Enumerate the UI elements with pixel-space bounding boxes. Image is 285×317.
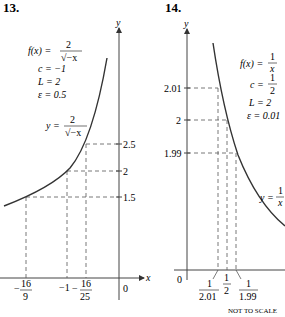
svg-text:√−x: √−x <box>65 127 81 138</box>
function-info: f(x) = 1 x c = 1 2 L = 2 ε = 0.01 <box>240 51 280 121</box>
problem-number: 14. <box>165 0 181 15</box>
svg-text:9: 9 <box>23 291 28 302</box>
y-tick-2.5: 2.5 <box>123 139 136 150</box>
figure: 13. y x 2.5 2 1.5 − 16 <box>0 0 285 317</box>
svg-text:2: 2 <box>70 114 75 125</box>
curve-label: y = 1 x <box>259 185 284 208</box>
svg-text:2: 2 <box>270 85 275 96</box>
x-tick-1-over-2: 1 2 <box>223 272 231 296</box>
curve-label: y = 2 √−x <box>45 114 87 138</box>
svg-text:L = 2: L = 2 <box>248 97 271 108</box>
svg-text:−: − <box>72 283 78 294</box>
x-tick-neg16-9: − 16 9 <box>14 278 32 302</box>
svg-text:y =: y = <box>259 192 274 203</box>
y-axis-label: y <box>115 17 121 28</box>
origin-label: 0 <box>123 283 128 294</box>
svg-text:1: 1 <box>246 278 251 289</box>
svg-text:f(x) =: f(x) = <box>28 45 51 57</box>
problem-number: 13. <box>3 0 19 15</box>
x-tick-1-over-2.01: 1 2.01 <box>199 278 219 302</box>
svg-text:25: 25 <box>80 291 90 302</box>
svg-text:1: 1 <box>270 72 275 83</box>
graph-14: 14. y 2.01 2 1.99 0 1 <box>140 0 285 315</box>
svg-text:−: − <box>14 283 20 294</box>
svg-text:L = 2: L = 2 <box>37 76 60 87</box>
svg-text:c = −1: c = −1 <box>38 63 66 74</box>
svg-text:1: 1 <box>278 185 283 196</box>
svg-text:c =: c = <box>250 79 264 90</box>
y-tick-1.99: 1.99 <box>164 148 182 159</box>
svg-text:16: 16 <box>21 278 31 289</box>
not-to-scale-note: NOT TO SCALE <box>228 307 277 315</box>
svg-text:ε = 0.5: ε = 0.5 <box>38 89 66 100</box>
x-tick-neg16-25: − 16 25 <box>72 278 92 302</box>
origin-label: 0 <box>177 274 182 285</box>
graph-13: 13. y x 2.5 2 1.5 − 16 <box>0 0 151 302</box>
svg-text:1.99: 1.99 <box>239 291 257 302</box>
svg-text:2.01: 2.01 <box>199 291 217 302</box>
svg-text:f(x) =: f(x) = <box>240 58 263 70</box>
svg-text:ε = 0.01: ε = 0.01 <box>247 110 280 121</box>
svg-text:1: 1 <box>270 51 275 62</box>
guide-lines <box>187 88 236 270</box>
svg-text:√−x: √−x <box>61 52 77 63</box>
y-axis-label: y <box>183 18 189 29</box>
y-tick-2: 2 <box>176 115 181 126</box>
y-tick-1.5: 1.5 <box>123 192 136 203</box>
y-tick-2: 2 <box>123 166 128 177</box>
y-tick-2.01: 2.01 <box>164 83 182 94</box>
svg-text:y =: y = <box>45 120 60 131</box>
svg-text:x: x <box>277 197 283 208</box>
x-tick-neg1: −1 <box>59 282 70 293</box>
svg-text:16: 16 <box>81 278 91 289</box>
function-info: f(x) = 2 √−x c = −1 L = 2 ε = 0.5 <box>28 39 82 100</box>
svg-text:1: 1 <box>207 278 212 289</box>
x-axis-label: x <box>145 272 151 283</box>
svg-text:2: 2 <box>66 39 71 50</box>
svg-text:1: 1 <box>224 272 229 283</box>
x-tick-1-over-1.99: 1 1.99 <box>239 278 258 302</box>
svg-text:2: 2 <box>224 285 229 296</box>
